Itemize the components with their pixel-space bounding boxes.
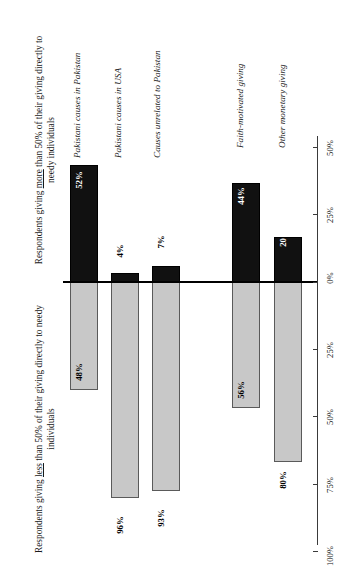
bar-value-causes-unrelated-to-pakistan-positive: 7% (156, 222, 166, 262)
category-label-faith-motivated-giving: Faith-motivated giving (235, 18, 247, 148)
bar-value-other-monetary-giving-negative: 80% (278, 460, 288, 500)
bar-value-faith-motivated-giving-positive: 44% (236, 176, 246, 216)
category-label-other-monetary-giving: Other monetary giving (277, 18, 289, 148)
bar-value-pakistani-causes-in-pakistan-positive: 52% (74, 160, 84, 200)
header-less-prefix: Respondents giving (34, 477, 44, 553)
bar-value-faith-motivated-giving-negative: 56% (236, 370, 246, 410)
axis-tick-label-25: 25% (325, 330, 335, 370)
axis-tick-mark-0 (313, 282, 318, 283)
axis-tick-mark-25 (313, 349, 318, 350)
header-more-prefix: Respondents giving (34, 188, 44, 264)
axis-tick-label-50: 50% (325, 397, 335, 437)
bar-pakistani-causes-in-usa-negative (111, 282, 139, 498)
section-header-more-than-50: Respondents giving more than 50% of thei… (34, 24, 57, 276)
bar-value-causes-unrelated-to-pakistan-negative: 93% (156, 498, 166, 538)
bar-causes-unrelated-to-pakistan-negative (152, 282, 180, 491)
bar-other-monetary-giving-negative (274, 282, 302, 462)
axis-tick-mark-75 (313, 484, 318, 485)
header-less-suffix: than 50% of their giving directly to nee… (34, 305, 56, 463)
bar-value-other-monetary-giving-positive: 20% (278, 218, 288, 258)
axis-tick-label-0: 0% (325, 258, 335, 298)
bar-value-pakistani-causes-in-usa-negative: 96% (115, 505, 125, 545)
axis-tick-mark-50 (313, 416, 318, 417)
axis-tick-mark-100 (313, 551, 318, 552)
header-less-emphasis: less (34, 463, 44, 477)
category-label-pakistani-causes-in-usa: Pakistani causes in USA (113, 28, 125, 158)
axis-tick-label-50-neg: 50% (325, 128, 335, 168)
zero-baseline (63, 281, 318, 283)
bar-value-pakistani-causes-in-pakistan-negative: 48% (74, 352, 84, 392)
axis-tick-label-25-neg: 25% (325, 195, 335, 235)
header-more-suffix: than 50% of their giving directly to nee… (34, 36, 56, 183)
category-label-pakistani-causes-in-pakistan: Pakistani causes in Pakistan (72, 28, 84, 158)
rotated-diverging-bar-chart: Respondents giving more than 50% of thei… (0, 0, 349, 576)
axis-tick-label-75: 75% (325, 465, 335, 505)
category-label-causes-unrelated-to-pakistan: Causes unrelated to Pakistan (152, 28, 164, 158)
axis-tick-mark-25-neg (313, 214, 318, 215)
bar-causes-unrelated-to-pakistan-positive (152, 266, 180, 282)
bar-value-pakistani-causes-in-usa-positive: 4% (115, 231, 125, 271)
axis-tick-mark-50-neg (313, 147, 318, 148)
header-more-emphasis: more (34, 169, 44, 188)
axis-tick-label-100: 100% (325, 536, 335, 576)
section-header-less-than-50: Respondents giving less than 50% of thei… (34, 294, 57, 564)
